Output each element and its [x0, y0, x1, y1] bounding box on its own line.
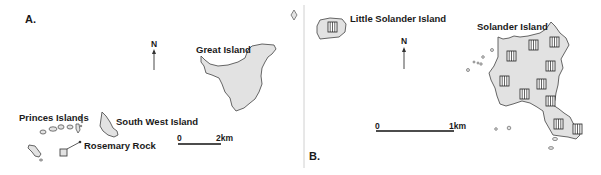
rosemary-rock-marker	[60, 149, 67, 156]
scale-start-b: 0	[375, 122, 380, 131]
north-label-a: N	[151, 40, 157, 49]
panel-label-a: A.	[25, 14, 36, 25]
scale-end-a: 2km	[216, 134, 233, 143]
scale-end-b: 1km	[449, 122, 466, 131]
diamond-rock	[291, 10, 297, 20]
north-arrow-b-icon	[402, 47, 406, 69]
scale-start-a: 0	[177, 134, 182, 143]
label-south-west-island: South West Island	[116, 117, 198, 127]
label-princes-islands: Princes Islands	[19, 113, 89, 123]
north-arrow-a-icon	[152, 49, 156, 70]
label-rosemary-rock: Rosemary Rock	[84, 141, 156, 151]
lower-left-island-shape	[28, 145, 41, 157]
label-solander-island: Solander Island	[477, 22, 548, 32]
label-little-solander-island: Little Solander Island	[350, 14, 446, 24]
north-label-b: N	[401, 37, 407, 46]
label-great-island: Great Island	[196, 45, 251, 55]
panel-label-b: B.	[309, 151, 320, 162]
